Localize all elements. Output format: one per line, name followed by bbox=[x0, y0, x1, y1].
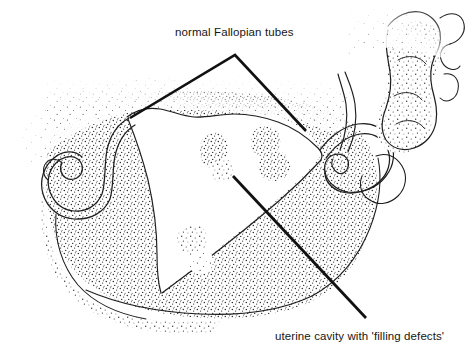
illustration-canvas bbox=[0, 0, 472, 355]
label-normal-fallopian-tubes: normal Fallopian tubes bbox=[175, 26, 294, 39]
label-uterine-cavity-filling-defects: uterine cavity with 'filling defects' bbox=[275, 330, 444, 343]
filling-defect-6 bbox=[189, 249, 214, 274]
hsg-illustration: normal Fallopian tubes uterine cavity wi… bbox=[0, 0, 472, 355]
filling-defect-4 bbox=[259, 151, 291, 181]
